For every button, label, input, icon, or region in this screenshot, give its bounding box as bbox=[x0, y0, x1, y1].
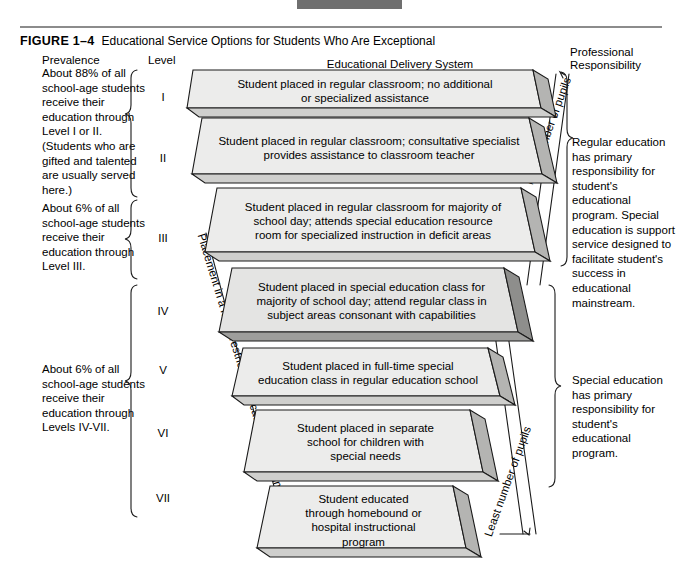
column-header-level: Level bbox=[148, 54, 208, 67]
level-label-3: III bbox=[152, 232, 174, 244]
prevalence-note-2: About 6% of all school-age students rece… bbox=[42, 201, 147, 274]
figure-caption: FIGURE 1–4Educational Service Options fo… bbox=[20, 31, 435, 49]
responsibility-note-special-education: Special education has primary responsibi… bbox=[572, 373, 676, 461]
delivery-slab-level-2[interactable]: Student placed in regular classroom; con… bbox=[192, 118, 587, 188]
figure-canvas: FIGURE 1–4Educational Service Options fo… bbox=[0, 0, 682, 579]
level-label-4: IV bbox=[152, 305, 174, 317]
level-label-7: VII bbox=[152, 492, 174, 504]
top-decoration-bar bbox=[297, 0, 402, 9]
delivery-slab-level-6[interactable]: Student placed in separate school for ch… bbox=[244, 410, 564, 488]
delivery-slab-level-5[interactable]: Student placed in full-time special educ… bbox=[232, 348, 572, 410]
delivery-slab-level-3[interactable]: Student placed in regular classroom for … bbox=[205, 188, 585, 268]
caption-rule bbox=[20, 26, 662, 28]
delivery-slab-level-1[interactable]: Student placed in regular classroom; no … bbox=[185, 70, 585, 122]
figure-number: FIGURE 1–4 bbox=[20, 34, 95, 48]
prevalence-note-3: About 6% of all school-age students rece… bbox=[42, 362, 147, 435]
delivery-slab-level-4[interactable]: Student placed in special education clas… bbox=[219, 268, 579, 348]
delivery-slab-level-7[interactable]: Student educated through homebound or ho… bbox=[257, 486, 557, 564]
prevalence-note-1: About 88% of all school-age students rec… bbox=[42, 66, 147, 197]
responsibility-note-regular-education: Regular education has primary responsibi… bbox=[572, 135, 676, 310]
level-label-1: I bbox=[152, 91, 174, 103]
level-label-6: VI bbox=[152, 427, 174, 439]
figure-title: Educational Service Options for Students… bbox=[95, 34, 436, 48]
level-label-5: V bbox=[152, 364, 174, 376]
column-header-professional-responsibility: Professional Responsibility bbox=[570, 46, 674, 72]
level-label-2: II bbox=[152, 152, 174, 164]
